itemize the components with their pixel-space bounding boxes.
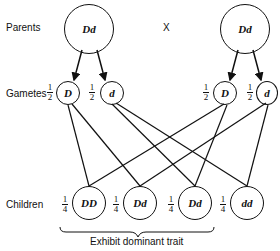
gamete-node: D bbox=[213, 81, 237, 105]
gamete-allele: D bbox=[221, 87, 229, 99]
child-node: dd bbox=[230, 186, 264, 220]
fraction: 14 bbox=[219, 195, 227, 214]
fraction: 12 bbox=[246, 83, 254, 102]
fraction: 14 bbox=[112, 195, 120, 214]
gamete-allele: d bbox=[109, 87, 115, 99]
brace-caption: Exhibit dominant trait bbox=[90, 236, 183, 247]
child-genotype: DD bbox=[81, 197, 97, 209]
fraction: 14 bbox=[61, 195, 69, 214]
fraction: 12 bbox=[202, 83, 210, 102]
gamete-node: d bbox=[100, 81, 124, 105]
fraction: 14 bbox=[167, 195, 175, 214]
child-node: Dd bbox=[123, 186, 157, 220]
parent-node: Dd bbox=[220, 4, 270, 54]
parent-genotype: Dd bbox=[82, 23, 95, 35]
fraction: 12 bbox=[46, 83, 54, 102]
child-node: Dd bbox=[178, 186, 212, 220]
gamete-node: D bbox=[56, 81, 80, 105]
child-genotype: Dd bbox=[188, 197, 201, 209]
parent-node: Dd bbox=[64, 4, 114, 54]
parents-label: Parents bbox=[6, 22, 40, 33]
parent-genotype: Dd bbox=[238, 23, 251, 35]
fraction: 12 bbox=[88, 83, 96, 102]
cross-symbol: X bbox=[163, 22, 170, 33]
child-node: DD bbox=[72, 186, 106, 220]
child-genotype: dd bbox=[242, 197, 253, 209]
gamete-allele: D bbox=[64, 87, 72, 99]
gamete-node: d bbox=[256, 81, 278, 105]
gamete-allele: d bbox=[264, 87, 270, 99]
gametes-label: Gametes bbox=[6, 88, 47, 99]
child-genotype: Dd bbox=[133, 197, 146, 209]
children-label: Children bbox=[6, 199, 43, 210]
